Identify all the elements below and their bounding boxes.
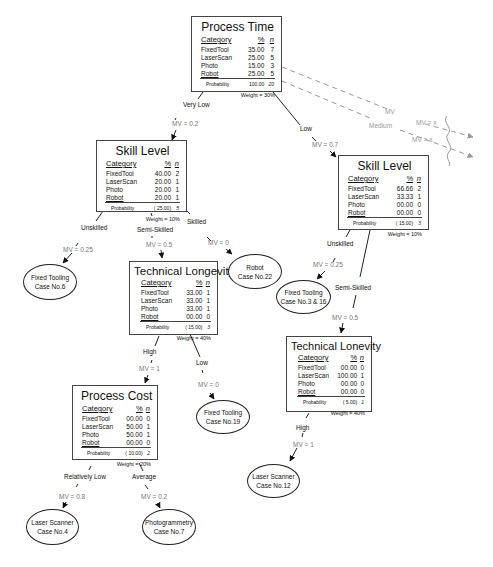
leaf-case: Case No.19 <box>206 417 240 426</box>
weight-label: Weight = 10% <box>105 216 180 222</box>
table-row: Robot00.000 <box>347 209 422 218</box>
edge-mv-unskilled-left: MV = 0.25 <box>63 246 93 253</box>
table-row: Robot00.000 <box>297 388 365 397</box>
probability-row: Probability( 10.00)2 <box>81 448 151 458</box>
table-row: Photo50.001 <box>81 431 151 439</box>
node-title: Technical Longevity <box>134 265 211 277</box>
leaf-photogrammetry-case-7[interactable]: Photogrammetry Case No.7 <box>142 509 196 545</box>
node-title: Technical Lonevity <box>291 340 365 352</box>
leaf-laser-scanner-case-12[interactable]: Laser Scanner Case No.12 <box>247 464 300 498</box>
category-table: Category%n FixedTool33.001 LaserScan33.0… <box>140 279 211 331</box>
table-row: Photo00.000 <box>297 380 365 388</box>
table-row: LaserScan100.001 <box>297 372 365 380</box>
edge-label-mv-other: MV <box>385 108 395 115</box>
category-table: Category%n FixedTool35.007 LaserScan25.0… <box>200 36 275 88</box>
edge-mv-high-left: MV = 1 <box>139 365 160 372</box>
edge-mv-high-right: MV = 1 <box>293 441 314 448</box>
leaf-fixed-tooling-case-6[interactable]: Fixed Tooling Case No.6 <box>23 264 77 300</box>
edge-label-skilled-left: Skilled <box>187 218 206 225</box>
category-table: Category%n FixedTool00.000 LaserScan50.0… <box>81 405 151 457</box>
probability-row: Probability( 15.00)3 <box>347 218 422 228</box>
edge-label-high-right: High <box>296 424 309 431</box>
weight-label: Weight = 40% <box>291 410 365 416</box>
table-row: Robot25.005 <box>200 70 275 79</box>
table-row: Robot00.000 <box>140 313 211 322</box>
edge-label-high-left: High <box>143 348 156 355</box>
table-row: Photo20.001 <box>105 186 180 194</box>
leaf-fixed-tooling-case-3-16[interactable]: Fixed Tooling Case No.3 & 16 <box>276 280 331 314</box>
leaf-label: Photogrammetry <box>145 518 193 527</box>
weight-label: Weight = 10% <box>347 231 422 237</box>
leaf-case: Case No.7 <box>154 527 185 536</box>
edge-label-low-left: Low <box>196 359 208 366</box>
col-percent: % <box>242 36 265 46</box>
node-technical-longevity[interactable]: Technical Longevity Category%n FixedTool… <box>129 261 218 335</box>
node-process-cost[interactable]: Process Cost Category%n FixedTool00.000 … <box>72 385 158 460</box>
edge-mv-low-left: MV = 0 <box>198 381 219 388</box>
table-row: FixedTool40.002 <box>105 170 180 178</box>
probability-row: Probability( 5.00)1 <box>297 397 365 407</box>
table-row: Photo33.001 <box>140 305 211 313</box>
leaf-label: Robot <box>246 263 263 272</box>
table-row: LaserScan50.001 <box>81 423 151 431</box>
node-title: Process Cost <box>81 389 151 403</box>
weight-label: Weight = 30% <box>200 92 275 98</box>
col-category: Category <box>200 36 242 46</box>
node-process-time[interactable]: Process Time Category%n FixedTool35.007 … <box>191 16 282 92</box>
probability-row: Probability( 15.00)3 <box>140 322 211 332</box>
node-technical-lonevity[interactable]: Technical Lonevity Category%n FixedTool0… <box>286 336 372 412</box>
leaf-label: Fixed Tooling <box>284 288 322 297</box>
table-row: LaserScan33.001 <box>140 297 211 305</box>
weight-label: Weight = 20% <box>81 461 151 467</box>
edge-mv-relatively-low: MV = 0.8 <box>59 493 85 500</box>
category-table: Category%n FixedTool40.002 LaserScan20.0… <box>105 160 180 212</box>
probability-row: Probability( 25.00)5 <box>105 203 180 213</box>
edge-label-semi-skilled-right: Semi-Skilled <box>335 284 371 291</box>
probability-row: Probability100.0020 <box>200 79 275 89</box>
table-row: FixedTool33.001 <box>140 289 211 297</box>
table-row: Robot20.001 <box>105 194 180 203</box>
edge-label-unskilled-left: Unskilled <box>81 224 107 231</box>
leaf-label: Fixed Tooling <box>204 408 242 417</box>
table-row: Photo15.003 <box>200 62 275 70</box>
table-row: FixedTool35.007 <box>200 46 275 54</box>
edge-mv-semi-skilled-right: MV = 0.5 <box>332 314 358 321</box>
table-row: LaserScan33.331 <box>347 193 422 201</box>
node-title: Process Time <box>200 20 275 34</box>
table-row: Robot00.000 <box>81 439 151 448</box>
edge-label-semi-skilled-left: Semi-Skilled <box>137 226 173 233</box>
edge-label-very-low: Very Low <box>183 101 210 108</box>
edge-mv-low-top: MV = 0.7 <box>312 141 338 148</box>
leaf-case: Case No.3 & 16 <box>281 297 327 306</box>
edge-mv-unskilled-right: MV = 0.25 <box>313 261 343 268</box>
edge-mv-very-low: MV = 0.2 <box>172 120 198 127</box>
edge-mv-semi-skilled-left: MV = 0.5 <box>146 241 172 248</box>
leaf-fixed-tooling-case-19[interactable]: Fixed Tooling Case No.19 <box>196 400 250 434</box>
table-row: LaserScan20.001 <box>105 178 180 186</box>
node-skill-level-right[interactable]: Skill Level Category%n FixedTool66.662 L… <box>338 155 429 230</box>
node-skill-level-left[interactable]: Skill Level Category%n FixedTool40.002 L… <box>96 140 187 212</box>
leaf-label: Laser Scanner <box>252 472 294 481</box>
table-row: FixedTool00.000 <box>297 364 365 372</box>
table-row: FixedTool00.000 <box>81 415 151 423</box>
node-title: Skill Level <box>105 144 180 158</box>
node-title: Skill Level <box>347 159 422 173</box>
edge-mv-average: MV = 0.2 <box>141 493 167 500</box>
table-row: LaserScan25.005 <box>200 54 275 62</box>
edge-mv-other: MV = x <box>416 119 436 126</box>
table-row: Photo00.000 <box>347 201 422 209</box>
leaf-case: Case No.6 <box>35 282 66 291</box>
edge-mv-skilled-left: MV = 0 <box>208 239 229 246</box>
category-table: Category%n FixedTool00.000 LaserScan100.… <box>297 354 365 406</box>
table-row: FixedTool66.662 <box>347 185 422 193</box>
leaf-case: Case No.4 <box>37 527 68 536</box>
leaf-label: Fixed Tooling <box>31 273 69 282</box>
leaf-robot-case-22[interactable]: Robot Case No.22 <box>228 254 282 289</box>
edge-label-unskilled-right: Unskilled <box>327 240 353 247</box>
leaf-case: Case No.12 <box>256 481 290 490</box>
weight-label: Weight = 40% <box>134 335 211 341</box>
edge-label-relatively-low: Relatively Low <box>64 473 106 480</box>
leaf-case: Case No.22 <box>238 272 272 281</box>
leaf-laser-scanner-case-4[interactable]: Laser Scanner Case No.4 <box>26 509 79 545</box>
edge-label-medium: Medium <box>369 122 392 129</box>
